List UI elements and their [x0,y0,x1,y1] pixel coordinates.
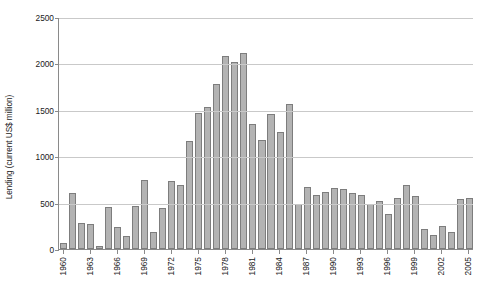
bar [249,124,256,249]
x-axis-tick [225,250,226,254]
x-axis-tick-label: 1990 [328,257,338,275]
x-axis-tick [441,250,442,254]
bar [195,113,202,249]
gridline [59,157,473,158]
x-axis-tick-label: 1996 [382,257,392,275]
bar [96,246,103,249]
plot-area [58,18,473,250]
bar [421,229,428,249]
bar [69,193,76,249]
y-axis-tick [55,18,59,19]
bar [394,198,401,250]
x-axis-tick [117,250,118,254]
bar [222,56,229,249]
x-axis-tick-label: 1975 [193,257,203,275]
gridline [59,64,473,65]
y-axis-tick [55,157,59,158]
x-axis-tick [252,250,253,254]
x-axis-tick-label: 1987 [301,257,311,275]
bar [430,235,437,249]
bar [150,232,157,249]
x-axis-tick-label: 1981 [247,257,257,275]
x-axis-tick [279,250,280,254]
gridline [59,18,473,19]
bar [231,62,238,249]
y-axis-tick-label: 500 [40,199,54,209]
bar-chart: Lending (current US$ million) 0500100015… [0,0,485,294]
bar [376,201,383,249]
bar [385,214,392,249]
bar [204,107,211,249]
x-axis-tick-label: 1999 [409,257,419,275]
gridline [59,111,473,112]
x-axis-tick-labels: 1960196319661969197219751978198119841987… [58,250,473,294]
y-axis-tick-label: 2500 [36,13,54,23]
bar [258,140,265,250]
bar [304,187,311,249]
x-axis-tick-label: 1972 [166,257,176,275]
x-axis-tick [63,250,64,254]
bar [295,204,302,249]
bar [168,181,175,249]
bar [114,227,121,249]
y-axis-tick-label: 1500 [36,106,54,116]
bar [349,193,356,249]
x-axis-tick [468,250,469,254]
bar [177,185,184,249]
x-axis-tick-label: 2005 [463,257,473,275]
x-axis-tick [144,250,145,254]
y-axis-tick [55,64,59,65]
x-axis-tick-label: 1966 [112,257,122,275]
y-axis-title: Lending (current US$ million) [0,0,18,294]
bar [213,84,220,249]
x-axis-tick [360,250,361,254]
bar [123,236,130,249]
x-axis-tick-label: 1969 [139,257,149,275]
y-axis-tick-label: 2000 [36,59,54,69]
gridline [59,204,473,205]
bar [457,199,464,249]
bar [159,208,166,249]
x-axis-tick [387,250,388,254]
bar [267,114,274,249]
x-axis-tick-label: 1984 [274,257,284,275]
bar [87,224,94,249]
x-axis-tick [198,250,199,254]
y-axis-tick-label: 0 [49,245,54,255]
y-axis-tick [55,204,59,205]
bar [403,185,410,249]
bar [322,192,329,249]
x-axis-tick [171,250,172,254]
bar [340,189,347,249]
bar [240,53,247,249]
y-axis-tick-label: 1000 [36,152,54,162]
x-axis-tick [306,250,307,254]
bar [78,223,85,249]
bar [331,188,338,249]
bars-layer [59,18,473,249]
x-axis-tick [90,250,91,254]
y-axis-tick-labels: 05001000150020002500 [24,18,54,250]
x-axis-tick-label: 1960 [58,257,68,275]
x-axis-tick-label: 1978 [220,257,230,275]
bar [466,198,473,250]
bar [141,180,148,249]
x-axis-tick [333,250,334,254]
bar [132,206,139,249]
x-axis-tick [414,250,415,254]
bar [439,226,446,249]
x-axis-tick-label: 2002 [436,257,446,275]
bar [367,204,374,249]
bar [60,243,67,249]
y-axis-tick [55,111,59,112]
bar [277,132,284,249]
bar [105,207,112,249]
x-axis-tick-label: 1963 [85,257,95,275]
bar [448,232,455,249]
bar [286,104,293,249]
x-axis-tick-label: 1993 [355,257,365,275]
